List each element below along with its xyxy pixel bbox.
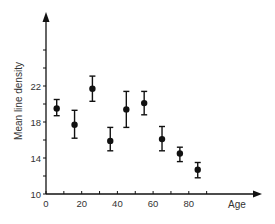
data-point — [54, 100, 60, 116]
data-point — [71, 110, 77, 138]
x-tick-label: 80 — [184, 198, 195, 209]
x-tick-label: 20 — [76, 198, 87, 209]
axis-ticks: 02040608010141822 — [30, 50, 206, 209]
data-marker-icon — [89, 86, 95, 92]
y-tick-label: 18 — [30, 117, 41, 128]
y-tick-label: 10 — [30, 189, 41, 200]
data-point — [123, 91, 129, 127]
data-marker-icon — [159, 136, 165, 142]
data-point — [89, 76, 95, 101]
x-tick-label: 60 — [148, 198, 159, 209]
y-axis-arrow-icon — [43, 12, 50, 22]
y-tick-label: 22 — [30, 81, 41, 92]
data-marker-icon — [195, 167, 201, 173]
data-marker-icon — [107, 138, 113, 144]
data-point — [177, 147, 183, 161]
x-axis-label: Age — [228, 199, 246, 210]
data-point — [159, 127, 165, 151]
data-points — [54, 76, 201, 178]
data-marker-icon — [123, 106, 129, 112]
data-marker-icon — [54, 105, 60, 111]
data-point — [107, 127, 113, 150]
y-axis-label: Mean line density — [13, 62, 24, 140]
line-density-chart: 02040608010141822 Age Mean line density — [0, 0, 275, 224]
data-marker-icon — [141, 100, 147, 106]
data-marker-icon — [177, 150, 183, 156]
data-marker-icon — [71, 122, 77, 128]
data-point — [141, 91, 147, 114]
y-tick-label: 14 — [30, 153, 41, 164]
data-point — [195, 163, 201, 178]
x-tick-label: 0 — [43, 198, 48, 209]
x-tick-label: 40 — [112, 198, 123, 209]
axes — [43, 12, 263, 198]
x-axis-arrow-icon — [253, 191, 262, 198]
